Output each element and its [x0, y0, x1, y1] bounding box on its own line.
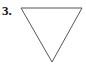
inverted-triangle-shape	[0, 0, 86, 67]
triangle-outline	[21, 8, 82, 62]
